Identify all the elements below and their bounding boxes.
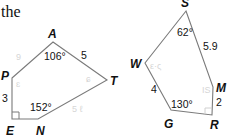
side-MR-length: 2 — [216, 96, 222, 108]
side-SM-length: 5.9 — [203, 40, 218, 52]
angle-S-measure: 62° — [177, 26, 193, 38]
vertex-label-M: M — [216, 81, 227, 95]
faint-mark: 9 — [16, 52, 21, 62]
side-AT-length: 5 — [81, 49, 87, 61]
vertex-label-A: A — [47, 27, 57, 41]
vertex-label-R: R — [210, 118, 219, 132]
vertex-label-T: T — [110, 74, 119, 88]
faint-mark: ɕ — [86, 74, 91, 84]
faint-mark: 5 ℓ — [72, 104, 84, 114]
right-angle-mark-E — [12, 112, 19, 119]
faint-mark: IS — [202, 85, 211, 95]
angle-A-measure: 106° — [44, 50, 66, 62]
diagram: the 9 ɛ ɕ 5 ℓ A T N E P 106° 5 3 152° ε·… — [0, 0, 235, 138]
angle-N-measure: 152° — [30, 101, 52, 113]
vertex-label-N: N — [36, 124, 45, 138]
right-angle-mark-R — [205, 108, 212, 114]
vertex-label-G: G — [164, 117, 173, 131]
vertex-label-W: W — [130, 57, 143, 71]
vertex-label-S: S — [181, 0, 189, 10]
faint-mark: ε·ς — [150, 61, 162, 71]
pentagon-PATNE: 9 ɛ ɕ 5 ℓ A T N E P 106° 5 3 152° — [1, 27, 119, 138]
pentagon-SMRGW: ε·ς IS S M R G W 62° 5.9 4 130° 2 — [130, 0, 227, 132]
figures-canvas: 9 ɛ ɕ 5 ℓ A T N E P 106° 5 3 152° ε·ς IS… — [0, 0, 235, 138]
faint-mark: ɛ — [16, 79, 20, 89]
vertex-label-P: P — [1, 69, 10, 83]
angle-G-measure: 130° — [171, 98, 193, 110]
side-WG-length: 4 — [151, 83, 157, 95]
side-PE-length: 3 — [2, 92, 8, 104]
vertex-label-E: E — [6, 124, 15, 138]
